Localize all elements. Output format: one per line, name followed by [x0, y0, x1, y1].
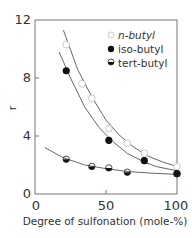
n-butyl-data-point: [105, 125, 112, 132]
y-tick-12: 12: [14, 12, 31, 27]
iso-butyl-data-point: [141, 157, 148, 164]
n-butyl-data-point: [141, 150, 148, 157]
iso-butyl-data-point: [63, 67, 70, 74]
legend-filled-circle-icon: [108, 46, 114, 52]
tert-butyl-data-point: [89, 163, 95, 169]
legend-n-butyl: n-butyl: [118, 29, 155, 41]
iso-butyl-data-point: [105, 137, 112, 144]
tert-butyl-data-point: [124, 169, 130, 175]
y-tick-0: 0: [23, 186, 31, 201]
tert-butyl-data-point: [63, 156, 69, 162]
n-butyl-data-point: [63, 41, 70, 48]
x-axis-label: Degree of sulfonation (mole-%): [23, 215, 188, 227]
tert-butyl-data-point: [106, 165, 112, 171]
n-butyl-data-point: [78, 80, 85, 87]
legend-tert-butyl: tert-butyl: [118, 57, 167, 69]
n-butyl-data-point: [124, 140, 131, 147]
x-tick-0: 0: [32, 198, 40, 213]
x-tick-labels: 0 50 100: [32, 198, 189, 213]
x-tick-100: 100: [164, 198, 189, 213]
legend-iso-butyl: iso-butyl: [118, 43, 163, 55]
y-axis-label: r: [6, 105, 19, 110]
legend: n-butyl iso-butyl tert-butyl: [108, 29, 168, 69]
iso-butyl-fit-curve: [59, 52, 177, 171]
legend-open-circle-icon: [108, 32, 114, 38]
y-tick-4: 4: [23, 128, 31, 143]
chart: 0 4 8 12 0 50 100 Degree of sulfonation …: [0, 0, 192, 238]
n-butyl-data-point: [174, 163, 181, 170]
y-tick-8: 8: [23, 70, 31, 85]
x-tick-50: 50: [98, 198, 115, 213]
n-butyl-data-point: [88, 95, 95, 102]
